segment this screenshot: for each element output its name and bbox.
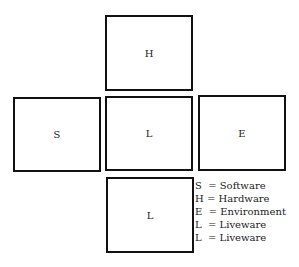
- legend: S = Software H = Hardware E = Environmen…: [195, 179, 286, 244]
- box-liveware-bottom: L: [106, 177, 194, 253]
- legend-item: L = Liveware: [195, 218, 286, 231]
- box-liveware-center: L: [105, 96, 193, 171]
- box-label: L: [147, 210, 154, 221]
- box-environment: E: [198, 95, 286, 171]
- legend-item: S = Software: [195, 179, 286, 192]
- box-label: H: [145, 48, 154, 59]
- box-label: L: [146, 128, 153, 139]
- box-software: S: [13, 97, 101, 172]
- box-label: E: [238, 128, 245, 139]
- legend-item: H = Hardware: [195, 192, 286, 205]
- box-label: S: [54, 129, 61, 140]
- box-hardware: H: [105, 15, 193, 91]
- legend-item: L = Liveware: [195, 231, 286, 244]
- legend-item: E = Environment: [195, 205, 286, 218]
